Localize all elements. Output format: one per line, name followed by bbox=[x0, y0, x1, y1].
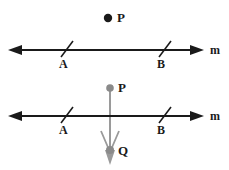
diagram-canvas: P m A B P m bbox=[0, 0, 229, 170]
line-m-left-arrowhead-upper bbox=[8, 45, 22, 55]
point-p-dot-upper bbox=[104, 14, 112, 22]
line-m-right-arrowhead-lower bbox=[190, 111, 204, 121]
tick-label-a-upper: A bbox=[59, 57, 68, 71]
geometry-figure: P m A B P m bbox=[0, 0, 229, 170]
line-m-label-lower: m bbox=[210, 109, 220, 123]
tick-label-a-lower: A bbox=[59, 123, 68, 137]
line-m-left-arrowhead-lower bbox=[8, 111, 22, 121]
line-m-right-arrowhead-upper bbox=[190, 45, 204, 55]
upper-panel: P m A B bbox=[8, 10, 220, 71]
line-m-label-upper: m bbox=[210, 43, 220, 57]
point-q-dot-lower bbox=[106, 146, 114, 154]
tick-label-b-upper: B bbox=[157, 57, 165, 71]
point-p-dot-lower bbox=[106, 84, 114, 92]
point-p-label-lower: P bbox=[118, 80, 126, 95]
tick-label-b-lower: B bbox=[157, 123, 165, 137]
point-q-label-lower: Q bbox=[118, 143, 128, 158]
point-p-label-upper: P bbox=[117, 10, 125, 25]
lower-panel: P m A B Q bbox=[8, 80, 220, 165]
